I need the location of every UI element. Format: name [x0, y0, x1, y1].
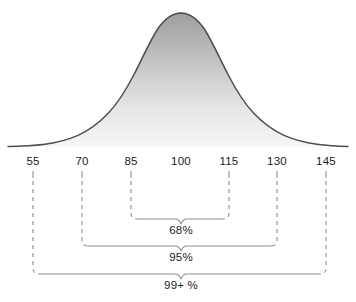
- drop-line-130: [271, 181, 277, 246]
- interval-label-68: 68%: [169, 225, 193, 237]
- tick-label-115: 115: [220, 156, 239, 168]
- tick-label-100: 100: [171, 156, 191, 168]
- tick-label-145: 145: [316, 156, 336, 168]
- interval-label-99: 99+ %: [164, 280, 198, 292]
- bell-curve-fill: [8, 13, 348, 147]
- drop-line-85: [131, 181, 137, 219]
- normal-distribution-chart: 55 70 85 100 115 130 145 68% 95% 99+ %: [0, 0, 356, 302]
- drop-line-70: [82, 181, 88, 246]
- drop-line-115: [223, 181, 229, 219]
- axis-tick-marks: [33, 171, 326, 178]
- tick-label-130: 130: [267, 156, 287, 168]
- drop-line-55: [33, 181, 39, 274]
- tick-label-85: 85: [124, 156, 137, 168]
- drop-line-145: [320, 181, 326, 274]
- tick-label-55: 55: [26, 156, 39, 168]
- interval-label-95: 95%: [169, 252, 193, 264]
- bell-curve: [8, 13, 348, 147]
- tick-label-70: 70: [75, 156, 88, 168]
